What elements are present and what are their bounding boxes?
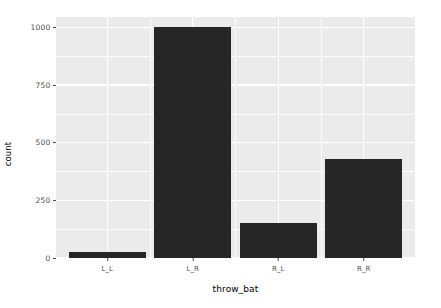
x-axis-tick-mark [278,258,279,261]
gridline-major-x [278,17,279,258]
y-axis-title: count [0,0,16,308]
y-axis-tick: 750 [36,79,56,91]
x-axis-tick-mark [363,258,364,261]
bar-chart: count 02505007501000 L_LL_RR_LR_R throw_… [0,0,441,308]
x-axis-tick-label: R_R [357,265,371,273]
y-axis-tick: 0 [46,252,56,264]
x-axis: L_LL_RR_LR_R [56,258,415,282]
x-axis-tick-mark [107,258,108,261]
gridline-minor-x [150,17,151,258]
bar [240,223,317,258]
y-axis-tick: 250 [36,194,56,206]
y-axis-tick-label: 0 [46,254,51,263]
y-axis: 02505007501000 [16,17,56,258]
bar [154,27,231,258]
x-axis-title-text: throw_bat [213,284,259,294]
bar [325,159,402,258]
x-axis-tick: L_L [101,258,113,273]
x-axis-tick: R_L [272,258,285,273]
y-axis-title-text: count [3,142,13,166]
y-axis-tick-label: 500 [36,138,51,147]
x-axis-tick: L_R [186,258,199,273]
y-axis-tick: 1000 [31,21,56,33]
y-axis-tick-label: 1000 [31,23,51,32]
gridline-major-x [107,17,108,258]
x-axis-tick-label: R_L [272,265,285,273]
plot-panel [56,17,415,258]
gridline-minor-x [235,17,236,258]
y-axis-tick-label: 750 [36,81,51,90]
y-axis-tick: 500 [36,137,56,149]
x-axis-tick-mark [192,258,193,261]
y-axis-tick-label: 250 [36,196,51,205]
x-axis-title: throw_bat [56,284,415,294]
x-axis-tick: R_R [357,258,371,273]
x-axis-tick-label: L_L [101,265,113,273]
gridline-minor-x [321,17,322,258]
x-axis-tick-label: L_R [186,265,199,273]
